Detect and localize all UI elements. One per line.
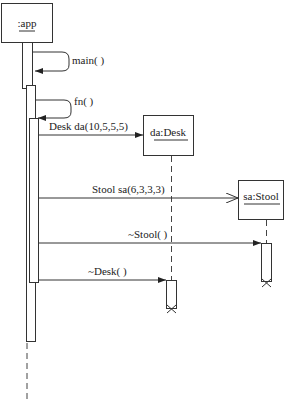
message-label-main: main( ) [72,54,104,67]
self-call-arrow-fn [35,100,71,118]
message-main: main( ) [32,52,104,71]
object-desk: da:Desk [144,116,194,156]
object-label-stool: sa:Stool [243,190,278,202]
message-label-fn: fn( ) [74,95,94,108]
activation-app-fn [30,119,39,283]
sequence-diagram: :app main( ) fn( ) da:Desk Desk da(10,5,… [0,0,297,399]
object-stool: sa:Stool [239,181,284,220]
activation-desk [167,281,177,309]
object-label-desk: da:Desk [150,126,187,138]
object-label-app: :app [18,17,37,29]
message-label-create-stool: Stool sa(6,3,3,3) [92,183,165,196]
message-create-desk: Desk da(10,5,5,5) [39,120,143,135]
object-app: :app [2,4,53,43]
message-destroy-stool: ~Stool( ) [39,228,261,243]
message-label-create-desk: Desk da(10,5,5,5) [49,120,128,133]
activation-app-outer-top [23,43,33,89]
message-label-destroy-desk: ~Desk( ) [88,265,127,278]
message-create-stool: Stool sa(6,3,3,3) [39,183,238,198]
activation-stool [262,244,272,282]
message-fn: fn( ) [35,95,94,118]
message-label-destroy-stool: ~Stool( ) [128,228,168,241]
message-destroy-desk: ~Desk( ) [39,265,166,280]
self-call-arrow-main [32,52,69,71]
